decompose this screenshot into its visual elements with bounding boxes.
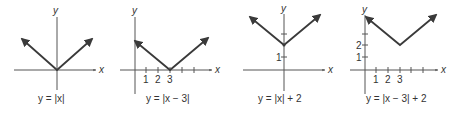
x-axis-label: x (327, 64, 334, 75)
x-axis-label: x (440, 64, 447, 75)
vertex-point (283, 44, 286, 47)
graph-caption: y = |x| + 2 (258, 93, 302, 104)
y-axis-label: y (361, 4, 368, 15)
y-axis-label: y (131, 5, 138, 16)
graph-abs-x-minus-3: y x 1 2 3 y = |x − 3| (120, 5, 221, 104)
graph-caption: y = |x − 3| (146, 93, 190, 104)
y-tick-label: 1 (276, 52, 282, 63)
graph-caption: y = |x| (38, 93, 65, 104)
y-axis-label: y (52, 5, 59, 16)
x-tick-label: 2 (385, 74, 391, 85)
x-tick-label: 2 (155, 74, 161, 85)
y-tick-label: 2 (356, 40, 362, 51)
graph-abs-x: y x y = |x| (14, 5, 105, 104)
x-tick-label: 3 (397, 74, 403, 85)
x-tick-label: 3 (167, 74, 173, 85)
x-tick-label: 1 (373, 74, 379, 85)
abs-curve (135, 38, 208, 70)
y-tick-label: 1 (356, 52, 362, 63)
x-axis-label: x (98, 64, 105, 75)
y-axis-label: y (280, 3, 287, 14)
absolute-value-graphs-figure: y x y = |x| y x 1 2 3 y = |x − 3| y x 1 … (0, 0, 458, 116)
abs-curve (366, 15, 436, 45)
x-axis-label: x (214, 64, 221, 75)
graph-abs-x-plus-2: y x 1 y = |x| + 2 (243, 3, 334, 104)
graph-caption: y = |x − 3| + 2 (366, 93, 427, 104)
graph-abs-x-minus-3-plus-2: y x 1 2 1 2 3 y = |x − 3| + 2 (350, 4, 447, 104)
abs-curve (250, 15, 320, 45)
x-tick-label: 1 (143, 74, 149, 85)
